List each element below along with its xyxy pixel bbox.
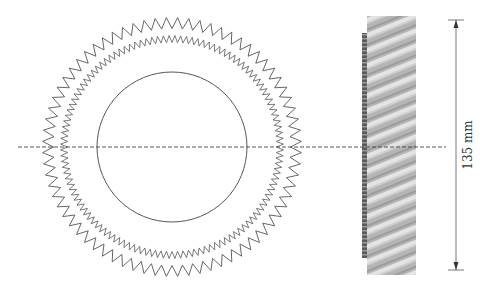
dimension: 135 mm [448, 20, 475, 270]
gear-diagram: 135 mm [0, 0, 489, 293]
arrow-up-icon [454, 20, 459, 28]
side-view-helical-body [367, 16, 416, 275]
arrow-down-icon [454, 262, 459, 270]
dimension-label: 135 mm [461, 120, 475, 170]
side-view [362, 16, 416, 275]
